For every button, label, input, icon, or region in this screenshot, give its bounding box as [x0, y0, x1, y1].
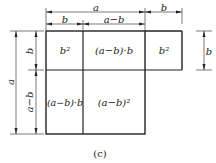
- dim-label-b-right: b: [206, 46, 212, 57]
- dim-label-b-top-left: b: [62, 14, 68, 25]
- cell-top-right: b²: [159, 45, 169, 56]
- dim-label-a-top: a: [93, 2, 99, 13]
- figure-caption: (c): [93, 148, 106, 159]
- dim-label-b-left: b: [24, 48, 35, 54]
- cell-top-middle: (a−b)·b: [95, 45, 133, 56]
- dim-label-a-minus-b-left: a−b: [24, 92, 35, 113]
- dim-label-a-minus-b-top: a−b: [104, 14, 125, 25]
- dim-label-b-top-right: b: [161, 2, 167, 13]
- cell-bottom-middle: (a−b)²: [98, 97, 131, 108]
- cell-top-left: b²: [60, 45, 70, 56]
- cell-bottom-left: (a−b)·b: [47, 97, 83, 108]
- dim-label-a-left: a: [5, 79, 16, 85]
